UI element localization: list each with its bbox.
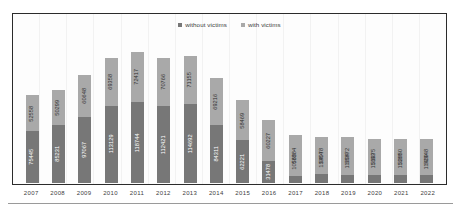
bar-column[interactable]: 6022731478 xyxy=(256,36,282,183)
bar-value-label: 11693 xyxy=(371,153,377,169)
bar-column[interactable]: 5197511693 xyxy=(361,36,387,183)
legend-swatch-icon xyxy=(178,23,182,27)
x-axis-tick-label: 2009 xyxy=(71,190,97,196)
bar-column[interactable]: 6921684311 xyxy=(203,36,229,183)
bar-segment[interactable]: 31478 xyxy=(262,161,275,183)
bar-segment[interactable]: 11409 xyxy=(420,175,433,183)
bar-stack[interactable]: 70766112421 xyxy=(157,58,170,184)
bar-value-label: 58469 xyxy=(240,112,246,128)
bar-column[interactable]: 5029985231 xyxy=(45,36,71,183)
bar-segment[interactable]: 114692 xyxy=(184,104,197,183)
bar-segment[interactable]: 84311 xyxy=(210,125,223,183)
bar-stack[interactable]: 5197511693 xyxy=(368,139,381,183)
bar-column[interactable]: 71155114692 xyxy=(177,36,203,183)
x-axis-tick-labels: 2007200820092010201120122013201420152016… xyxy=(18,190,441,196)
chart-legend: without victimswith victims xyxy=(13,21,446,28)
bar-value-label: 71155 xyxy=(187,72,193,88)
x-axis-tick-label: 2017 xyxy=(282,190,308,196)
bar-segment[interactable]: 60648 xyxy=(78,75,91,117)
bar-value-label: 31478 xyxy=(266,164,272,180)
bar-value-label: 69358 xyxy=(108,74,114,90)
bar-value-label: 112421 xyxy=(161,135,167,154)
bar-segment[interactable]: 52558 xyxy=(26,95,39,131)
page-baseline-rule xyxy=(8,203,453,204)
bar-segment[interactable]: 112421 xyxy=(157,106,170,183)
bar-value-label: 113129 xyxy=(108,135,114,154)
bar-stack[interactable]: 5255875445 xyxy=(26,95,39,183)
x-axis-tick-label: 2008 xyxy=(44,190,70,196)
bar-stack[interactable]: 72417118744 xyxy=(131,52,144,183)
bar-column[interactable]: 70766112421 xyxy=(151,36,177,183)
bar-segment[interactable]: 85231 xyxy=(52,125,65,183)
bar-value-label: 85231 xyxy=(56,146,62,162)
bar-segment[interactable]: 11693 xyxy=(368,175,381,183)
bar-column[interactable]: 5587211604 xyxy=(335,36,361,183)
bar-column[interactable]: 72417118744 xyxy=(124,36,150,183)
bar-value-label: 13354 xyxy=(319,152,325,168)
bar-stack[interactable]: 5846962221 xyxy=(236,100,249,183)
legend-item-label: without victims xyxy=(185,21,227,28)
legend-item[interactable]: without victims xyxy=(178,21,227,28)
bar-value-label: 60648 xyxy=(82,88,88,104)
bar-stack[interactable]: 5029985231 xyxy=(52,90,65,183)
x-axis-tick-label: 2021 xyxy=(388,190,414,196)
x-axis-tick-label: 2007 xyxy=(18,190,44,196)
bar-value-label: 62221 xyxy=(240,154,246,170)
bar-segment[interactable]: 70766 xyxy=(157,58,170,106)
bar-stack[interactable]: 5888410563 xyxy=(289,135,302,183)
bar-value-label: 11409 xyxy=(424,154,430,170)
bar-value-label: 52558 xyxy=(29,105,35,121)
bar-column[interactable]: 5407813354 xyxy=(308,36,334,183)
bar-segment[interactable]: 60227 xyxy=(262,120,275,161)
bar-segment[interactable]: 13354 xyxy=(315,174,328,183)
bar-stack[interactable]: 5294811409 xyxy=(420,139,433,183)
bar-stack[interactable]: 71155114692 xyxy=(184,56,197,183)
bar-stack[interactable]: 6022731478 xyxy=(262,120,275,183)
bar-column[interactable]: 5255875445 xyxy=(19,36,45,183)
bar-value-label: 97067 xyxy=(82,142,88,158)
x-axis-tick-label: 2019 xyxy=(335,190,361,196)
bar-value-label: 69216 xyxy=(214,93,220,109)
bar-segment[interactable]: 58469 xyxy=(236,100,249,140)
bar-stack[interactable]: 5265011689 xyxy=(394,139,407,183)
bar-column[interactable]: 69358113129 xyxy=(98,36,124,183)
bar-segment[interactable]: 69358 xyxy=(105,58,118,106)
bar-column[interactable]: 5846962221 xyxy=(230,36,256,183)
bar-stack[interactable]: 6064897067 xyxy=(78,75,91,183)
bar-segment[interactable]: 113129 xyxy=(105,106,118,184)
bar-value-label: 50299 xyxy=(56,99,62,115)
x-axis-tick-label: 2010 xyxy=(97,190,123,196)
x-axis-tick-label: 2014 xyxy=(203,190,229,196)
x-axis-tick-label: 2018 xyxy=(309,190,335,196)
bar-segment[interactable]: 75445 xyxy=(26,131,39,183)
bar-segment[interactable]: 10563 xyxy=(289,176,302,183)
bar-segment[interactable]: 71155 xyxy=(184,56,197,105)
bar-segment[interactable]: 69216 xyxy=(210,78,223,125)
bar-segment[interactable]: 72417 xyxy=(131,52,144,102)
bar-segment[interactable]: 11604 xyxy=(341,175,354,183)
bar-value-label: 118744 xyxy=(135,133,141,152)
bar-value-label: 72417 xyxy=(135,69,141,85)
x-axis-tick-label: 2012 xyxy=(150,190,176,196)
bar-stack[interactable]: 69358113129 xyxy=(105,58,118,183)
bar-value-label: 114692 xyxy=(187,134,193,153)
bar-stack[interactable]: 6921684311 xyxy=(210,78,223,183)
bar-value-label: 75445 xyxy=(29,149,35,165)
bar-stack[interactable]: 5587211604 xyxy=(341,137,354,183)
bar-column[interactable]: 5265011689 xyxy=(387,36,413,183)
bar-column[interactable]: 5294811409 xyxy=(414,36,440,183)
bar-stack[interactable]: 5407813354 xyxy=(315,137,328,183)
bar-segment[interactable]: 62221 xyxy=(236,140,249,183)
bar-segment[interactable]: 97067 xyxy=(78,117,91,184)
bar-segment[interactable]: 11689 xyxy=(394,175,407,183)
x-axis-tick-label: 2013 xyxy=(177,190,203,196)
bar-value-label: 10563 xyxy=(292,154,298,170)
x-axis-tick-label: 2022 xyxy=(415,190,441,196)
bar-segment[interactable]: 50299 xyxy=(52,90,65,124)
legend-item[interactable]: with victims xyxy=(241,21,281,28)
bar-column[interactable]: 6064897067 xyxy=(72,36,98,183)
chart-plot-area: 5255875445502998523160648970676935811312… xyxy=(19,36,440,183)
bar-column[interactable]: 5888410563 xyxy=(282,36,308,183)
chart-container: without victimswith victims 525587544550… xyxy=(12,13,447,185)
bar-segment[interactable]: 118744 xyxy=(131,102,144,183)
